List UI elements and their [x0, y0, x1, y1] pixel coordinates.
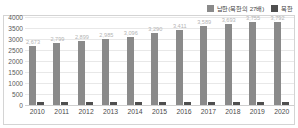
x-tick-label: 2016 — [172, 108, 196, 116]
y-tick-label: 500 — [1, 91, 23, 98]
bar-chart: 남한(북한의 27배) 북한 4000350030002500200015001… — [0, 0, 298, 128]
bar-south — [274, 22, 281, 105]
bar-value-label-south: 3,755 — [242, 15, 264, 21]
y-tick-label: 1500 — [1, 69, 23, 76]
x-axis: 2010201120122013201420152016201720182019… — [25, 106, 294, 124]
bar-south — [249, 22, 256, 105]
x-tick-label: 2020 — [270, 108, 294, 116]
bar-north — [208, 102, 215, 105]
chart-legend: 남한(북한의 27배) 북한 — [0, 1, 298, 16]
y-tick-label: 0 — [1, 102, 23, 109]
y-tick-label: 2000 — [1, 58, 23, 65]
bar-south — [176, 30, 183, 105]
bar-group: 3,755141 — [245, 17, 269, 105]
bar-north — [61, 102, 68, 105]
x-tick-label: 2011 — [50, 108, 74, 116]
bar-south — [225, 24, 232, 105]
bar-group: 3,792138 — [270, 17, 294, 105]
y-tick-label: 3500 — [1, 25, 23, 32]
legend-swatch-south-icon — [207, 5, 214, 12]
x-tick-label: 2015 — [148, 108, 172, 116]
plot-area: 2,6731242,7991302,8991372,9851383,096139… — [25, 17, 294, 105]
bar-north — [110, 102, 117, 105]
bar-group: 2,673124 — [25, 17, 49, 105]
legend-entry-south: 남한(북한의 27배) — [207, 5, 265, 12]
bar-group: 2,899137 — [74, 17, 98, 105]
bar-group: 2,799130 — [49, 17, 73, 105]
x-tick-label: 2010 — [25, 108, 49, 116]
y-axis: 40003500300025002000150010005000 — [0, 17, 23, 105]
legend-entry-north: 북한 — [271, 5, 293, 12]
bar-value-label-south: 3,411 — [169, 23, 191, 29]
x-tick-label: 2013 — [99, 108, 123, 116]
bar-value-label-south: 2,673 — [22, 39, 44, 45]
bar-value-label-south: 2,985 — [95, 32, 117, 38]
bar-value-label-south: 3,792 — [267, 15, 289, 21]
bar-value-label-south: 3,589 — [193, 19, 215, 25]
bar-north — [282, 102, 289, 105]
bar-group: 3,589146 — [196, 17, 220, 105]
bar-value-label-south: 2,899 — [71, 34, 93, 40]
y-tick-label: 1000 — [1, 80, 23, 87]
bar-value-label-north: 138 — [278, 95, 298, 101]
bar-group: 3,290139 — [147, 17, 171, 105]
y-tick-label: 2500 — [1, 47, 23, 54]
x-tick-label: 2018 — [221, 108, 245, 116]
bar-group: 3,693143 — [221, 17, 245, 105]
x-tick-label: 2019 — [245, 108, 269, 116]
bar-south — [200, 26, 207, 105]
bar-north — [184, 102, 191, 105]
bar-north — [257, 102, 264, 105]
y-tick-label: 4000 — [1, 14, 23, 21]
x-tick-label: 2012 — [74, 108, 98, 116]
bar-north — [135, 102, 142, 105]
bar-value-label-south: 3,290 — [144, 26, 166, 32]
bar-north — [233, 102, 240, 105]
bar-north — [159, 102, 166, 105]
bar-group: 3,411146 — [172, 17, 196, 105]
bar-value-label-south: 3,693 — [218, 17, 240, 23]
x-tick-label: 2017 — [196, 108, 220, 116]
bar-north — [37, 102, 44, 105]
x-tick-label: 2014 — [123, 108, 147, 116]
y-tick-label: 3000 — [1, 36, 23, 43]
legend-swatch-north-icon — [271, 5, 278, 12]
bar-north — [86, 102, 93, 105]
bar-value-label-south: 2,799 — [46, 36, 68, 42]
legend-label-north: 북한 — [281, 5, 293, 12]
legend-label-south: 남한(북한의 27배) — [217, 5, 265, 12]
bar-value-label-south: 3,096 — [120, 30, 142, 36]
